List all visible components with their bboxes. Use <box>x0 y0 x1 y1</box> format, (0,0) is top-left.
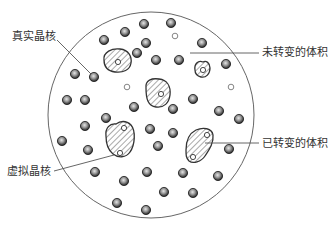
real-nucleus-dot <box>153 141 162 150</box>
real-nucleus-dot <box>224 144 233 153</box>
real-nucleus-dot <box>119 176 128 185</box>
real-nucleus-dot <box>139 19 148 28</box>
real-nucleus-dot <box>89 72 98 81</box>
real-nucleus-dot <box>214 106 223 115</box>
real-nucleus-dot <box>174 55 183 64</box>
real-nucleus-dot <box>132 48 141 57</box>
open-point <box>228 84 234 90</box>
phantom-center-point <box>158 91 163 96</box>
label-phantom-nucleus: 虚拟晶核 <box>7 166 51 178</box>
label-transformed-volume: 已转变的体积 <box>262 138 328 150</box>
real-nuclei <box>57 18 243 214</box>
real-nucleus-dot <box>197 38 206 47</box>
real-nucleus-dot <box>80 95 89 104</box>
phantom-center-point <box>200 67 205 72</box>
open-point <box>172 33 178 39</box>
phantom-center-point <box>204 132 209 137</box>
real-nucleus-dot <box>151 55 160 64</box>
real-nucleus-dot <box>62 95 71 104</box>
phantom-center-point <box>121 125 126 130</box>
label-real-nucleus: 真实晶核 <box>12 31 56 43</box>
real-nucleus-dot <box>101 113 110 122</box>
real-nucleus-dot <box>57 136 66 145</box>
phantom-center-point <box>190 154 195 159</box>
grain-center <box>146 79 170 107</box>
real-nucleus-dot <box>120 27 129 36</box>
real-nucleus-dot <box>99 35 108 44</box>
real-nucleus-dot <box>112 198 121 207</box>
real-nucleus-dot <box>178 168 187 177</box>
real-nucleus-dot <box>141 38 150 47</box>
open-point <box>124 84 130 90</box>
real-nucleus-dot <box>234 114 243 123</box>
real-nucleus-dot <box>221 59 230 68</box>
real-nucleus-dot <box>70 69 79 78</box>
label-untransformed-volume: 未转变的体积 <box>262 47 328 59</box>
real-nucleus-dot <box>142 167 151 176</box>
real-nucleus-dot <box>90 167 99 176</box>
phantom-center-point <box>115 59 120 64</box>
leader-phantom <box>54 155 114 171</box>
real-nucleus-dot <box>145 124 154 133</box>
real-nucleus-dot <box>159 187 168 196</box>
phantom-center-point <box>117 150 122 155</box>
sample-boundary-circle <box>48 12 254 218</box>
real-nucleus-dot <box>168 104 177 113</box>
real-nucleus-dot <box>168 128 177 137</box>
real-nucleus-dot <box>129 102 138 111</box>
real-nucleus-dot <box>213 171 222 180</box>
real-nucleus-dot <box>141 205 150 214</box>
real-nucleus-dot <box>166 18 175 27</box>
real-nucleus-dot <box>80 121 89 130</box>
real-nucleus-dot <box>188 188 197 197</box>
real-nucleus-dot <box>188 94 197 103</box>
real-nucleus-dot <box>83 145 92 154</box>
